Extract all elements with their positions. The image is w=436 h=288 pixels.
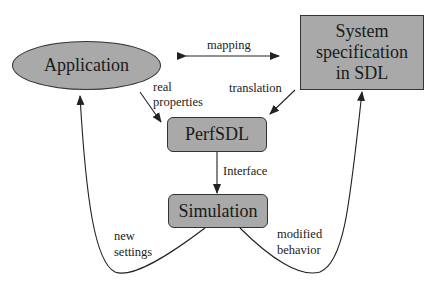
- settings-label: settings: [114, 245, 152, 260]
- simulation-node: Simulation: [168, 194, 268, 228]
- perfsdl-node: PerfSDL: [167, 117, 267, 152]
- modified-label: modified: [277, 227, 322, 242]
- mapping-label: mapping: [207, 38, 251, 53]
- translation-label: translation: [229, 81, 282, 96]
- properties-label: properties: [153, 95, 203, 110]
- new-label: new: [114, 229, 135, 244]
- perfsdl-label: PerfSDL: [185, 124, 249, 145]
- application-label: Application: [44, 55, 129, 76]
- system-spec-label-3: in SDL: [336, 63, 389, 84]
- simulation-label: Simulation: [178, 201, 257, 222]
- interface-label: Interface: [223, 164, 267, 179]
- behavior-label: behavior: [277, 243, 321, 258]
- system-spec-label-1: System: [335, 21, 388, 42]
- application-node: Application: [12, 41, 161, 90]
- real-label: real: [153, 80, 172, 95]
- system-spec-label-2: specification: [316, 42, 408, 63]
- system-spec-node: System specification in SDL: [300, 15, 424, 90]
